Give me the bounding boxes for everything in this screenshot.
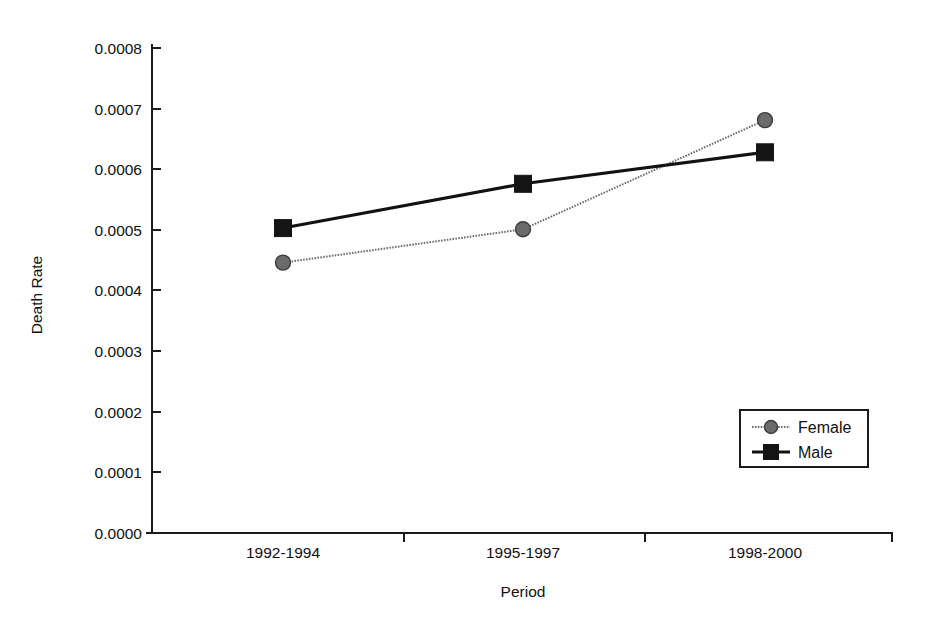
line-chart: 0.0008 0.0007 0.0006 0.0005 0.0004 0.000… — [0, 0, 941, 627]
data-point-female-1 — [276, 255, 291, 270]
square-marker-icon — [764, 445, 779, 460]
x-tick-label-period-2: 1995-1997 — [486, 544, 560, 561]
data-point-female-2 — [516, 222, 531, 237]
data-point-male-3 — [757, 144, 774, 161]
y-tick-label: 0.0008 — [95, 40, 142, 57]
y-tick-label: 0.0001 — [95, 464, 142, 481]
y-tick-label: 0.0004 — [95, 282, 143, 299]
y-tick-label: 0.0006 — [95, 161, 142, 178]
y-tick-label: 0.0007 — [95, 101, 142, 118]
chart-canvas: 0.0008 0.0007 0.0006 0.0005 0.0004 0.000… — [0, 0, 941, 627]
y-axis-title: Death Rate — [28, 256, 45, 334]
data-point-male-2 — [515, 175, 532, 192]
y-axis-ticks: 0.0008 0.0007 0.0006 0.0005 0.0004 0.000… — [95, 40, 161, 542]
data-point-male-1 — [275, 220, 292, 237]
y-tick-label: 0.0003 — [95, 343, 142, 360]
legend-label-female: Female — [798, 419, 851, 436]
legend-label-male: Male — [798, 444, 833, 461]
legend: Female Male — [740, 410, 868, 467]
x-tick-label-period-1: 1992-1994 — [246, 544, 321, 561]
y-tick-label: 0.0005 — [95, 222, 142, 239]
circle-marker-icon — [765, 421, 778, 434]
x-axis-ticks — [404, 533, 892, 542]
y-tick-label: 0.0002 — [95, 404, 142, 421]
x-axis-title: Period — [501, 583, 546, 600]
y-tick-label: 0.0000 — [95, 525, 143, 542]
x-tick-label-period-3: 1998-2000 — [728, 544, 803, 561]
data-point-female-3 — [758, 113, 773, 128]
